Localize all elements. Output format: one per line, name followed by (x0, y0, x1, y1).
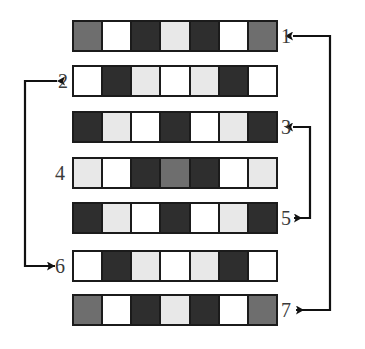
pattern-cell (103, 252, 132, 280)
pattern-cell (161, 67, 190, 95)
pattern-cell (249, 204, 276, 232)
pattern-cell (74, 252, 103, 280)
pattern-cell (191, 204, 220, 232)
pattern-cell (161, 296, 190, 324)
pattern-cell (191, 159, 220, 187)
pattern-cell (191, 113, 220, 141)
row-label-2: 2 (58, 71, 68, 91)
pattern-cell (220, 159, 249, 187)
pattern-cell (191, 252, 220, 280)
pattern-cell (161, 204, 190, 232)
pattern-row-2 (72, 65, 278, 97)
pattern-cell (161, 252, 190, 280)
pattern-cell (249, 252, 276, 280)
diagram-canvas: 1 2 3 4 5 6 7 (0, 0, 365, 349)
pattern-cell (103, 204, 132, 232)
row-label-5: 5 (281, 208, 291, 228)
pattern-cell (132, 296, 161, 324)
pattern-cell (220, 113, 249, 141)
pattern-row-6 (72, 250, 278, 282)
pattern-cell (74, 296, 103, 324)
pattern-cell (132, 113, 161, 141)
connector-3-5 (293, 127, 310, 218)
pattern-cell (249, 296, 276, 324)
pattern-cell (132, 159, 161, 187)
pattern-cell (249, 113, 276, 141)
pattern-cell (74, 22, 103, 50)
pattern-cell (220, 296, 249, 324)
pattern-cell (220, 252, 249, 280)
pattern-cell (103, 113, 132, 141)
pattern-cell (74, 159, 103, 187)
pattern-cell (161, 113, 190, 141)
pattern-cell (132, 22, 161, 50)
pattern-cell (132, 67, 161, 95)
pattern-row-3 (72, 111, 278, 143)
pattern-cell (103, 67, 132, 95)
pattern-cell (161, 22, 190, 50)
pattern-cell (103, 296, 132, 324)
pattern-cell (191, 296, 220, 324)
pattern-cell (74, 204, 103, 232)
pattern-cell (191, 22, 220, 50)
pattern-cell (249, 159, 276, 187)
row-label-3: 3 (281, 117, 291, 137)
pattern-cell (220, 67, 249, 95)
row-label-7: 7 (281, 300, 291, 320)
pattern-row-7 (72, 294, 278, 326)
row-label-4: 4 (55, 163, 65, 183)
pattern-cell (220, 22, 249, 50)
pattern-cell (220, 204, 249, 232)
pattern-cell (74, 113, 103, 141)
pattern-cell (191, 67, 220, 95)
pattern-row-4 (72, 157, 278, 189)
pattern-cell (249, 22, 276, 50)
pattern-cell (74, 67, 103, 95)
pattern-cell (103, 22, 132, 50)
pattern-row-5 (72, 202, 278, 234)
pattern-cell (249, 67, 276, 95)
pattern-cell (103, 159, 132, 187)
connector-2-6 (25, 81, 57, 266)
pattern-cell (132, 204, 161, 232)
pattern-cell (161, 159, 190, 187)
connector-1-7 (293, 36, 330, 310)
row-label-1: 1 (281, 26, 291, 46)
row-label-6: 6 (55, 256, 65, 276)
pattern-cell (132, 252, 161, 280)
pattern-row-1 (72, 20, 278, 52)
